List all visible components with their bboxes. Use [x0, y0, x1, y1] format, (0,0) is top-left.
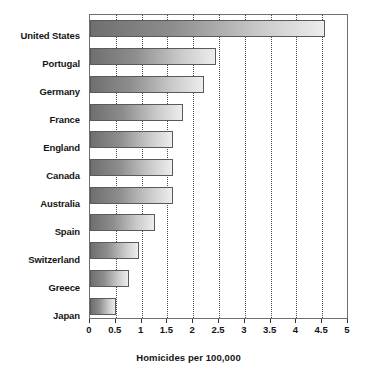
- x-tick-label-1: 1: [138, 324, 143, 335]
- x-tick-label-0: 0: [86, 324, 91, 335]
- gridline-4: [296, 15, 297, 318]
- x-tick-5: [347, 319, 348, 323]
- bar-0: [90, 20, 325, 37]
- x-tick-label-1.5: 1.5: [160, 324, 173, 335]
- x-tick-0: [89, 319, 90, 323]
- x-tick-0.5: [115, 319, 116, 323]
- bar-2: [90, 76, 204, 93]
- x-axis-labels: 00.511.522.533.544.55: [89, 324, 348, 338]
- x-tick-label-5: 5: [344, 324, 349, 335]
- category-label-8: Switzerland: [0, 255, 80, 265]
- category-axis: United States Portugal Germany France En…: [0, 14, 84, 319]
- category-label-6: Australia: [0, 199, 80, 209]
- x-tick-label-2: 2: [190, 324, 195, 335]
- bar-5: [90, 159, 173, 176]
- category-label-10: Japan: [0, 311, 80, 321]
- x-tick-label-4: 4: [293, 324, 298, 335]
- x-tick-3.5: [270, 319, 271, 323]
- category-label-2: Germany: [0, 87, 80, 97]
- x-tick-label-3.5: 3.5: [263, 324, 276, 335]
- plot-area: [89, 14, 348, 319]
- x-tick-1.5: [166, 319, 167, 323]
- x-axis-title: Homicides per 100,000: [0, 352, 377, 363]
- category-label-0: United States: [0, 31, 80, 41]
- x-tick-label-2.5: 2.5: [211, 324, 224, 335]
- bar-9: [90, 270, 129, 287]
- bar-4: [90, 131, 173, 148]
- x-tick-label-4.5: 4.5: [315, 324, 328, 335]
- x-tick-2: [192, 319, 193, 323]
- bar-10: [90, 298, 116, 315]
- x-tick-4.5: [321, 319, 322, 323]
- bar-3: [90, 104, 183, 121]
- gridline-4.5: [322, 15, 323, 318]
- bar-7: [90, 214, 155, 231]
- category-label-4: England: [0, 143, 80, 153]
- category-label-7: Spain: [0, 227, 80, 237]
- gridline-3: [245, 15, 246, 318]
- gridline-3.5: [271, 15, 272, 318]
- x-tick-2.5: [218, 319, 219, 323]
- category-label-9: Greece: [0, 283, 80, 293]
- category-label-5: Canada: [0, 171, 80, 181]
- category-label-3: France: [0, 115, 80, 125]
- x-tick-4: [295, 319, 296, 323]
- category-label-1: Portugal: [0, 59, 80, 69]
- x-tick-label-0.5: 0.5: [108, 324, 121, 335]
- bar-1: [90, 48, 216, 65]
- x-tick-label-3: 3: [241, 324, 246, 335]
- bar-6: [90, 187, 173, 204]
- bar-8: [90, 242, 139, 259]
- x-tick-1: [141, 319, 142, 323]
- gridline-2.5: [219, 15, 220, 318]
- x-tick-3: [244, 319, 245, 323]
- bar-chart: United States Portugal Germany France En…: [0, 0, 377, 381]
